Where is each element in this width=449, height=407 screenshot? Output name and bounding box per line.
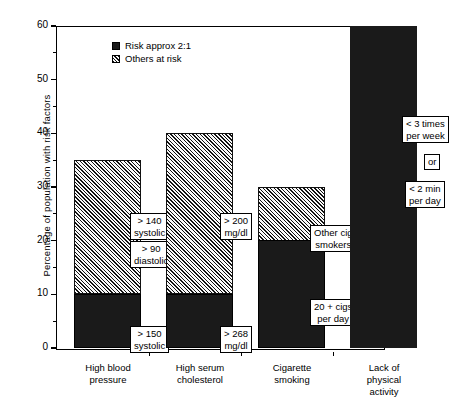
callout-line-1: > 140 [134, 215, 165, 227]
bar-high-serum-cholesterol[interactable] [166, 133, 233, 348]
x-label-line-1: Lack of [338, 362, 430, 374]
callout-line-2: per day [409, 195, 441, 207]
callout-line-1: Other cig [314, 227, 353, 239]
y-tick-label-0: 0 [8, 341, 48, 352]
x-label-line-1: Cigarette [246, 362, 338, 374]
x-label-line-1: High blood [62, 362, 154, 374]
callout-chol-200: > 200 mg/dl [220, 213, 252, 240]
callout-line-2: systolic [134, 227, 165, 239]
callout-line-1: 20 + cigs [314, 301, 352, 313]
x-axis-labels: High blood pressure High serum cholester… [56, 352, 383, 407]
bars-layer: > 140 systolic > 90 diastolic > 150 syst… [56, 26, 383, 348]
x-label-line-2: physical [338, 374, 430, 386]
callout-less-than-2-min-per-day: < 2 min per day [405, 181, 445, 208]
legend-label-others-at-risk: Others at risk [125, 53, 182, 66]
callout-line-2: diastolic [134, 255, 168, 267]
x-label-lack-of-physical-activity: Lack of physical activity [338, 362, 430, 398]
x-label-line-2: pressure [62, 374, 154, 386]
callout-line-2: per day [314, 313, 352, 325]
legend: Risk approx 2:1 Others at risk [112, 40, 191, 65]
callout-line-1: > 150 [134, 328, 165, 340]
legend-swatch-hatch-icon [112, 55, 120, 63]
x-label-cigarette-smoking: Cigarette smoking [246, 362, 338, 386]
legend-item-others-at-risk: Others at risk [112, 53, 191, 66]
x-tick-2 [241, 352, 242, 356]
callout-line-2: systolic [134, 340, 165, 352]
x-label-high-serum-cholesterol: High serum cholesterol [154, 362, 246, 386]
callout-line-1: or [428, 156, 436, 168]
callout-line-1: > 268 [224, 328, 248, 340]
callout-line-1: > 200 [224, 215, 248, 227]
callout-line-2: smokers [314, 239, 353, 251]
bar-segment-risk-approx-2to1 [258, 240, 325, 348]
x-label-high-blood-pressure: High blood pressure [62, 362, 154, 386]
legend-item-risk-approx-2to1: Risk approx 2:1 [112, 40, 191, 53]
callout-bp-systolic-150: > 150 systolic [130, 326, 169, 353]
y-tick-label-40: 40 [8, 126, 48, 137]
y-tick-label-60: 60 [8, 19, 48, 30]
y-axis-ticks: 60 50 40 30 20 [0, 0, 56, 348]
callout-chol-268: > 268 mg/dl [220, 326, 252, 353]
legend-swatch-dark-icon [112, 42, 120, 50]
y-tick-label-50: 50 [8, 73, 48, 84]
callout-line-1: < 2 min [409, 183, 441, 195]
callout-line-2: per week [406, 130, 445, 142]
callout-line-1: < 3 times [406, 118, 445, 130]
callout-less-than-3-times-per-week: < 3 times per week [402, 116, 449, 143]
y-tick-label-20: 20 [8, 234, 48, 245]
callout-line-1: > 90 [134, 243, 168, 255]
y-tick-label-10: 10 [8, 287, 48, 298]
legend-label-risk-approx-2to1: Risk approx 2:1 [125, 40, 191, 53]
callout-bp-systolic-140: > 140 systolic [130, 213, 169, 240]
x-label-line-2: cholesterol [154, 374, 246, 386]
x-label-line-3: activity [338, 386, 430, 398]
callout-or: or [424, 154, 440, 170]
callout-line-2: mg/dl [224, 340, 248, 352]
x-tick-1 [149, 352, 150, 356]
x-tick-3 [333, 352, 334, 356]
y-tick-label-30: 30 [8, 180, 48, 191]
x-label-line-2: smoking [246, 374, 338, 386]
callout-line-2: mg/dl [224, 227, 248, 239]
x-label-line-1: High serum [154, 362, 246, 374]
